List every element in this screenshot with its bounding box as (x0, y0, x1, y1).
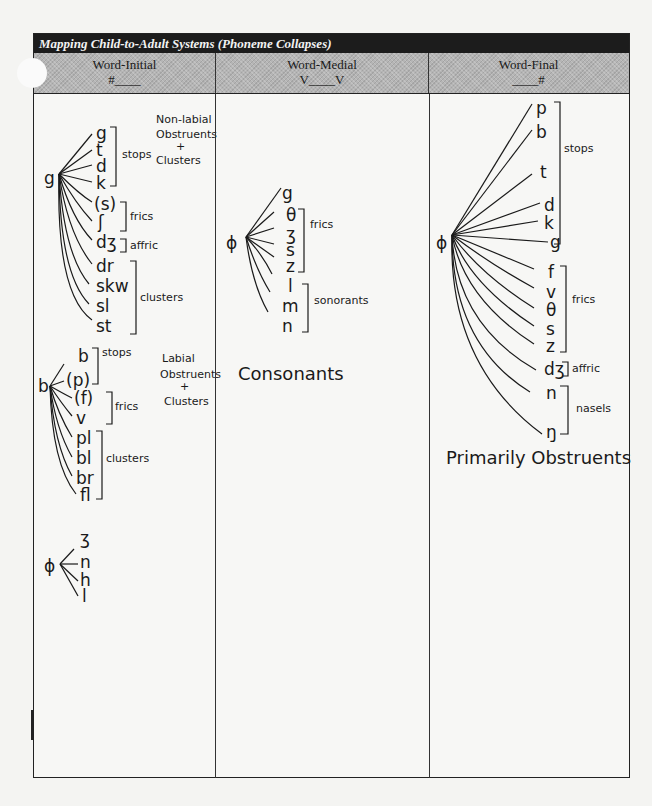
target-phoneme: f (548, 262, 555, 282)
target-phoneme: p (536, 98, 547, 118)
source-phoneme: g (44, 168, 55, 188)
header-label: Word-Initial (93, 57, 157, 72)
target-phoneme: θ (546, 300, 556, 320)
bracket-label: stops (564, 142, 594, 155)
target-phoneme: sl (96, 296, 110, 316)
target-phoneme: (s) (94, 194, 116, 214)
summary-label: Consonants (238, 363, 344, 384)
target-phoneme: l (288, 276, 293, 296)
target-phoneme: g (282, 183, 293, 203)
word-final-diagram: ϕ p b (430, 94, 630, 778)
target-phoneme: ŋ (546, 422, 557, 442)
word-initial-diagram: g g t d k (s) (34, 94, 215, 778)
target-phoneme: g (550, 232, 561, 252)
target-phoneme: bl (76, 448, 92, 468)
header-word-final: Word-Final ____# (428, 53, 628, 93)
group-note: Clusters (156, 154, 201, 167)
target-phoneme: (p) (66, 370, 90, 390)
bracket-label: stops (102, 346, 132, 359)
cell-word-final: ϕ p b (429, 94, 630, 778)
source-phoneme: b (38, 376, 49, 396)
target-phoneme: l (82, 586, 87, 606)
group-note: + (176, 140, 185, 153)
target-phoneme: b (78, 346, 89, 366)
brackets (298, 209, 308, 332)
source-phoneme: ϕ (44, 556, 55, 576)
target-phoneme: skw (96, 276, 129, 296)
bracket-label: clusters (106, 452, 149, 465)
header-context: V____V (216, 72, 428, 87)
target-phoneme: d (544, 195, 555, 215)
group-note: Clusters (164, 395, 209, 408)
target-phoneme: z (286, 256, 295, 276)
target-phoneme: ʃ (97, 212, 105, 232)
punch-hole (17, 58, 47, 88)
group-note: + (180, 380, 189, 393)
header-word-medial: Word-Medial V____V (215, 53, 428, 93)
target-phoneme: k (96, 173, 106, 193)
bracket-label: clusters (140, 291, 183, 304)
group-note: Obstruents (156, 128, 217, 141)
bracket-label: frics (130, 210, 153, 223)
source-phoneme: ϕ (436, 233, 447, 253)
summary-label: Primarily Obstruents (446, 447, 631, 468)
bracket-label: affric (130, 239, 158, 252)
target-phoneme: pl (76, 428, 92, 448)
cell-word-initial: g g t d k (s) (34, 94, 215, 778)
bracket-label: stops (122, 148, 152, 161)
target-phoneme: t (540, 162, 547, 182)
bracket-label: frics (572, 293, 595, 306)
target-phoneme: ʒ (80, 528, 90, 548)
target-phoneme: fl (80, 485, 91, 505)
mapping-lines (60, 549, 78, 596)
group-note: Non-labial (156, 113, 212, 126)
header-row: Word-Initial #____ Word-Medial V____V Wo… (34, 53, 629, 94)
mapping-lines (452, 104, 548, 434)
target-phoneme: dr (96, 256, 114, 276)
target-phoneme: v (76, 408, 86, 428)
target-phoneme: m (282, 296, 299, 316)
header-word-initial: Word-Initial #____ (34, 53, 215, 93)
target-phoneme: dʒ (96, 232, 117, 252)
target-phoneme: (f) (74, 388, 93, 408)
header-context: #____ (34, 72, 215, 87)
word-medial-diagram: ϕ g θ ʒ s z l m n (216, 94, 429, 778)
body-row: g g t d k (s) (34, 94, 629, 778)
cell-word-medial: ϕ g θ ʒ s z l m n (215, 94, 429, 778)
header-context: ____# (429, 72, 628, 87)
header-label: Word-Medial (287, 57, 357, 72)
margin-mark (31, 710, 33, 740)
bracket-label: frics (310, 218, 333, 231)
target-phoneme: b (536, 122, 547, 142)
brackets (92, 348, 112, 499)
target-phoneme: v (546, 282, 556, 302)
bracket-label: nasels (576, 402, 611, 415)
target-phoneme: z (546, 336, 555, 356)
bracket-label: affric (572, 362, 600, 375)
group-note: Obstruents (160, 368, 221, 381)
group-note: Labial (162, 352, 195, 365)
target-phoneme: st (96, 316, 112, 336)
bracket-label: sonorants (314, 294, 369, 307)
mapping-lines (246, 188, 281, 312)
header-label: Word-Final (499, 57, 559, 72)
mapping-lines (59, 134, 92, 320)
target-phoneme: k (544, 213, 554, 233)
target-phoneme: n (80, 552, 91, 572)
target-phoneme: n (282, 316, 293, 336)
table-title: Mapping Child-to-Adult Systems (Phoneme … (34, 34, 629, 53)
target-phoneme: dʒ (544, 359, 565, 379)
source-phoneme: ϕ (226, 233, 237, 253)
bracket-label: frics (115, 400, 138, 413)
target-phoneme: θ (286, 205, 296, 225)
target-phoneme: n (546, 383, 557, 403)
phoneme-collapse-table: Mapping Child-to-Adult Systems (Phoneme … (33, 33, 630, 778)
